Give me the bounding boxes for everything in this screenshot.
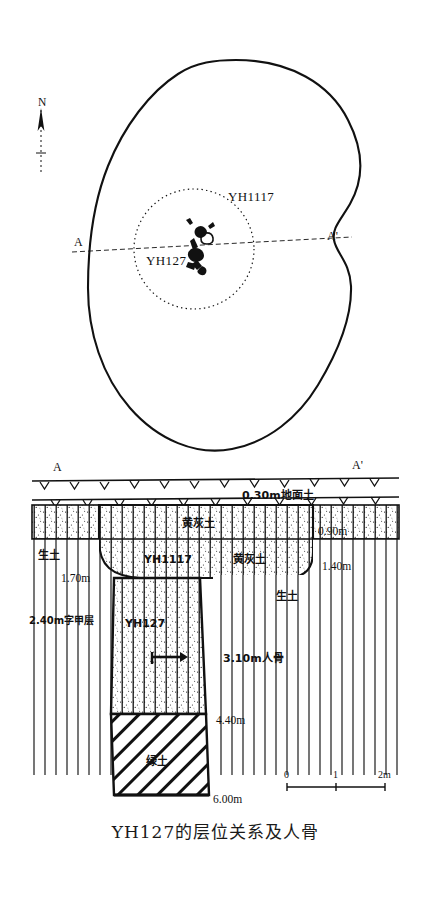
label-shengtu-right: 生土: [276, 589, 298, 603]
scale-tick-1: 1: [333, 769, 338, 780]
label-human-bone: 3.10m人骨: [223, 651, 284, 665]
label-yh1117-section: YH1117: [143, 553, 192, 566]
pit-outline-yh1117: [88, 60, 360, 451]
ground-surface-line: [32, 478, 399, 481]
plan-label-yh127: YH127: [146, 253, 186, 268]
plan-section-label-a: A: [74, 235, 83, 249]
label-depth-140: 1.40m: [322, 560, 351, 572]
label-lvtu: 绿土: [146, 754, 168, 768]
label-oracle-bone-layer: 2.40m字甲层: [29, 614, 94, 626]
section-label-a-prime: A': [352, 458, 363, 472]
figure-root: N A A' YH1117 YH127: [0, 0, 431, 902]
label-ground-soil: 0.30m地面土: [242, 488, 314, 502]
section-view: A A' 0.30m地面土 黄灰土 0.90m 生土 YH1117 黄灰土 1.…: [29, 458, 399, 805]
plan-section-label-a-prime: A': [327, 229, 338, 243]
label-huanghuitu-right: 黄灰土: [233, 552, 266, 566]
plan-label-yh1117: YH1117: [228, 189, 274, 204]
label-depth-170: 1.70m: [61, 572, 90, 584]
section-line: [72, 237, 352, 252]
north-arrow-label: N: [38, 96, 47, 108]
figure-caption: YH127的层位关系及人骨: [0, 818, 431, 843]
north-arrow-icon: [36, 108, 46, 175]
scale-tick-2: 2m: [378, 769, 391, 780]
label-huanghuitu-top: 黄灰土: [182, 516, 215, 530]
layer-shengtu-left-deep: [32, 575, 114, 775]
scale-tick-0: 0: [284, 769, 289, 780]
layer-boundary-030: [32, 497, 399, 500]
pit-fill-yh127-shaft: [111, 578, 206, 714]
pit-fill-yh1117-section: [99, 505, 313, 578]
plan-view: N A A' YH1117 YH127: [36, 60, 360, 451]
label-depth-090: 0.90m: [318, 525, 347, 537]
label-depth-440: 4.40m: [216, 714, 245, 726]
section-label-a: A: [53, 460, 62, 474]
label-shengtu-left: 生土: [38, 548, 60, 562]
label-yh127-section: YH127: [124, 617, 165, 630]
label-depth-600: 6.00m: [213, 793, 242, 805]
layer-shengtu-right-deep: [213, 575, 399, 775]
human-skeleton-icon: [186, 218, 215, 275]
archaeological-figure-svg: N A A' YH1117 YH127: [0, 0, 431, 902]
